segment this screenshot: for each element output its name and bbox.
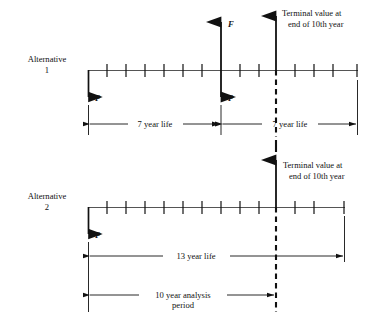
- alternative-1-cashflow-P-year7-label: P: [228, 93, 234, 103]
- alternative-1-dimension-label-second: 7 year life: [273, 119, 308, 129]
- alternative-2-terminal-label-line1: Terminal value at: [283, 160, 343, 170]
- alternative-1-name-line2: 1: [45, 65, 49, 75]
- alternative-2-dimension-label-13yr: 13 year life: [176, 251, 215, 261]
- alternative-1-dimension-label-first: 7 year life: [138, 119, 173, 129]
- alternative-2-dimension-label-10yr-line1: 10 year analysis: [155, 290, 211, 300]
- diagram-canvas: Alternative 1 P F P: [0, 0, 376, 327]
- alternative-2-name-line2: 2: [45, 202, 49, 212]
- alternative-2-cashflow-P-year0-label: P: [95, 230, 101, 240]
- alternative-2-dimension-label-10yr-line2: period: [172, 300, 195, 310]
- alternative-2-terminal-label-line2: end of 10th year: [289, 171, 345, 181]
- alternative-1-cashflow-P-year0-label: P: [95, 93, 101, 103]
- alternative-1-terminal-label-line2: end of 10th year: [288, 19, 344, 29]
- alternative-1-cashflow-F-year7-label: F: [227, 19, 234, 29]
- alternative-1-terminal-label-line1: Terminal value at: [282, 8, 342, 18]
- alternative-2-name-line1: Alternative: [28, 191, 67, 201]
- alternative-1-name-line1: Alternative: [28, 54, 67, 64]
- cash-flow-diagram: Alternative 1 P F P: [0, 0, 376, 327]
